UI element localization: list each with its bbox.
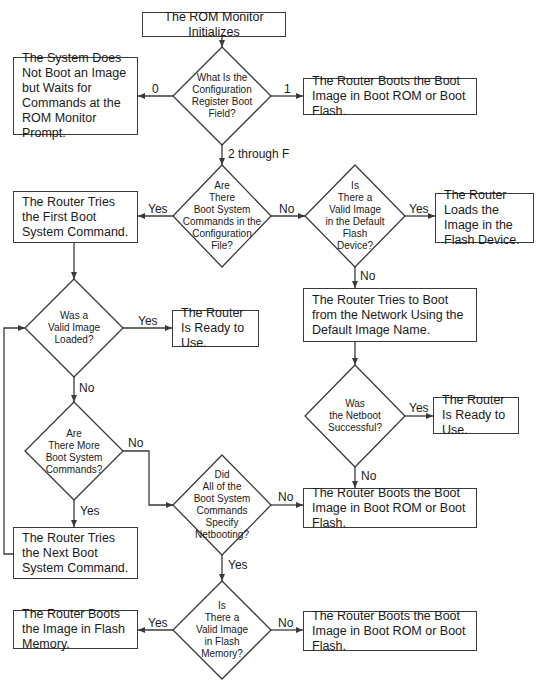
node-ready-to-use-2: The Router Is Ready to Use.	[433, 397, 519, 434]
decision-label: Was a Valid Image Loaded?	[48, 310, 100, 346]
decision-label: What Is the Configuration Register Boot …	[192, 72, 253, 120]
decision-label: Are There More Boot System Commands?	[46, 428, 103, 476]
decision-more-commands: Are There More Boot System Commands?	[28, 420, 120, 484]
decision-label: Is There a Valid Image in Flash Memory?	[196, 600, 248, 660]
node-boot-rom-flash-3: The Router Boots the Boot Image in Boot …	[303, 611, 477, 651]
decision-netboot-successful: Was the Netboot Successful?	[310, 388, 400, 444]
edge-label-more-yes: Yes	[80, 505, 100, 518]
node-first-boot-command: The Router Tries the First Boot System C…	[13, 191, 138, 243]
edge-label-netboot-yes: Yes	[409, 402, 429, 415]
edge-label-config-0: 0	[152, 83, 159, 96]
node-label: The Router Tries the First Boot System C…	[22, 195, 129, 240]
edge-label-netboot-no: No	[361, 470, 376, 483]
node-boot-rom-flash-1: The Router Boots the Boot Image in Boot …	[303, 78, 477, 115]
decision-default-flash: Is There a Valid Image in the Default Fl…	[310, 172, 400, 260]
decision-label: Is There a Valid Image in the Default Fl…	[326, 180, 385, 252]
edge-label-allnet-yes: Yes	[228, 559, 248, 572]
node-no-boot-rom-prompt: The System Does Not Boot an Image but Wa…	[13, 57, 138, 135]
decision-label: Did All of the Boot System Commands Spec…	[194, 469, 251, 541]
node-label: The Router Is Ready to Use.	[181, 306, 250, 351]
edge-label-loaded-yes: Yes	[138, 315, 158, 328]
decision-flash-memory: Is There a Valid Image in Flash Memory?	[178, 598, 266, 662]
node-label: The Router Tries the Next Boot System Co…	[22, 531, 129, 576]
decision-boot-commands: Are There Boot System Commands in the Co…	[173, 172, 271, 260]
edge-label-bootcmds-yes: Yes	[148, 203, 168, 216]
node-label: The System Does Not Boot an Image but Wa…	[22, 51, 129, 141]
decision-config-register: What Is the Configuration Register Boot …	[178, 60, 266, 132]
edge-label-loaded-no: No	[79, 382, 94, 395]
node-next-boot-command: The Router Tries the Next Boot System Co…	[13, 527, 138, 579]
node-label: The Router Is Ready to Use.	[442, 393, 510, 438]
edge-label-defflash-yes: Yes	[409, 203, 429, 216]
node-label: The Router Tries to Boot from the Networ…	[312, 293, 468, 338]
decision-valid-image-loaded: Was a Valid Image Loaded?	[30, 300, 118, 356]
node-label: The Router Loads the Image in the Flash …	[444, 188, 525, 248]
decision-label: Are There Boot System Commands in the Co…	[183, 180, 261, 252]
node-net-boot-default: The Router Tries to Boot from the Networ…	[303, 288, 477, 342]
edge-label-config-1: 1	[284, 83, 291, 96]
edge-label-flashmem-yes: Yes	[148, 617, 168, 630]
edge-label-more-no: No	[128, 437, 143, 450]
node-rom-monitor-initializes: The ROM Monitor Initializes	[142, 12, 286, 37]
edge-label-defflash-no: No	[360, 270, 375, 283]
decision-label: Was the Netboot Successful?	[328, 398, 382, 434]
node-boot-rom-flash-2: The Router Boots the Boot Image in Boot …	[303, 488, 477, 528]
edge-label-bootcmds-no: No	[279, 203, 294, 216]
node-label: The Router Boots the Image in Flash Memo…	[22, 607, 129, 652]
decision-all-netboot: Did All of the Boot System Commands Spec…	[176, 467, 268, 543]
edge-label-allnet-no: No	[278, 491, 293, 504]
node-boot-flash-memory: The Router Boots the Image in Flash Memo…	[13, 610, 138, 649]
node-label: The Router Boots the Boot Image in Boot …	[312, 609, 468, 654]
edge-label-flashmem-no: No	[278, 617, 293, 630]
node-label: The Router Boots the Boot Image in Boot …	[312, 486, 468, 531]
node-label: The Router Boots the Boot Image in Boot …	[312, 74, 468, 119]
node-label: The ROM Monitor Initializes	[149, 10, 279, 40]
edge-label-config-2f: 2 through F	[228, 148, 289, 161]
node-load-flash-device: The Router Loads the Image in the Flash …	[435, 193, 534, 243]
node-ready-to-use-1: The Router Is Ready to Use.	[172, 310, 259, 347]
